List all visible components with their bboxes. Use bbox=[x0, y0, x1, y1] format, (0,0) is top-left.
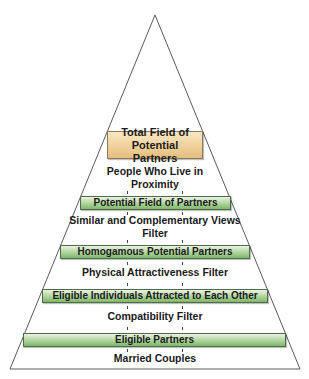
down-arrow-icon bbox=[127, 283, 128, 286]
down-arrow-icon bbox=[127, 327, 128, 330]
down-arrow-icon bbox=[182, 283, 183, 286]
filter-compatibility: Compatibility Filter bbox=[35, 310, 275, 323]
down-arrow-icon bbox=[182, 306, 183, 309]
down-arrow-icon bbox=[182, 262, 183, 265]
eligible-attracted-box: Eligible Individuals Attracted to Each O… bbox=[42, 289, 268, 303]
down-arrow-icon bbox=[127, 306, 128, 309]
down-arrow-icon bbox=[182, 240, 183, 243]
potential-field-box: Potential Field of Partners bbox=[80, 196, 231, 210]
married-couples-label: Married Couples bbox=[55, 352, 255, 365]
down-arrow-icon bbox=[127, 262, 128, 265]
down-arrow-icon bbox=[182, 191, 183, 194]
mate-selection-pyramid: Total Field of Potential Partners People… bbox=[0, 0, 309, 379]
filter-proximity: People Who Live in Proximity bbox=[55, 165, 255, 190]
down-arrow-icon bbox=[127, 191, 128, 194]
down-arrow-icon bbox=[155, 160, 156, 163]
down-arrow-icon bbox=[127, 240, 128, 243]
homogamous-partners-box: Homogamous Potential Partners bbox=[60, 245, 250, 259]
down-arrow-icon bbox=[182, 327, 183, 330]
eligible-partners-box: Eligible Partners bbox=[23, 333, 286, 347]
total-field-line1: Total Field of bbox=[121, 126, 189, 139]
total-field-box: Total Field of Potential Partners bbox=[107, 131, 203, 159]
filter-physical-attractiveness: Physical Attractiveness Filter bbox=[35, 266, 275, 279]
filter-similar-views: Similar and Complementary Views Filter bbox=[35, 214, 275, 239]
